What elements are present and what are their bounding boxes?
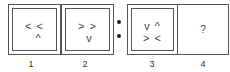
panel-1-label: 1	[24, 59, 38, 70]
question-mark: ?	[178, 24, 228, 36]
panel-2-inner-frame: > > v	[65, 8, 110, 51]
panel-1: < < ^	[8, 4, 61, 55]
panel-1-inner-frame: < < ^	[12, 8, 57, 51]
panel-3: v ^ > <	[127, 4, 178, 55]
panel-3-inner-frame: v ^ > <	[131, 8, 174, 51]
separator-dot-bottom-icon	[117, 34, 121, 38]
panel-2: > > v	[61, 4, 114, 55]
panel-2-bottom-glyphs: v	[66, 33, 109, 44]
separator-dot-top-icon	[117, 20, 121, 24]
panel-3-bottom-glyphs: > <	[132, 33, 173, 44]
panel-1-bottom-glyphs: ^	[13, 33, 56, 44]
panel-2-label: 2	[78, 59, 92, 70]
panel-1-top-glyphs: < <	[13, 21, 56, 32]
panel-4-answer-slot: ?	[177, 4, 229, 55]
panel-3-label: 3	[145, 59, 159, 70]
panel-2-top-glyphs: > >	[66, 21, 109, 32]
panel-4-label: 4	[196, 59, 210, 70]
panel-3-top-glyphs: v ^	[132, 21, 173, 32]
